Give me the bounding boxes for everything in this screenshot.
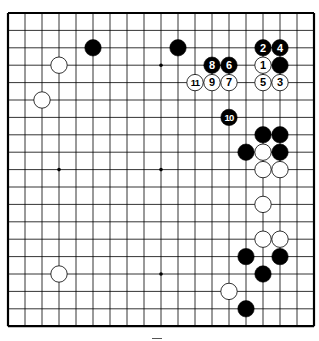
white-stone-move-5: 5 bbox=[255, 74, 271, 90]
star-point bbox=[159, 63, 163, 67]
white-stone bbox=[255, 161, 271, 177]
white-stone-icon bbox=[34, 92, 50, 108]
black-stone-icon bbox=[272, 127, 288, 143]
black-stone-move-4: 4 bbox=[272, 40, 288, 56]
black-stone-icon bbox=[255, 266, 271, 282]
black-stone-icon bbox=[238, 144, 254, 160]
white-stone-move-3: 3 bbox=[272, 74, 288, 90]
black-stone-move-6: 6 bbox=[221, 57, 237, 73]
white-stone bbox=[255, 196, 271, 212]
black-stone-move-8: 8 bbox=[204, 57, 220, 73]
white-stone bbox=[272, 161, 288, 177]
white-stone-icon bbox=[51, 266, 67, 282]
white-stone-icon bbox=[255, 196, 271, 212]
white-stone bbox=[51, 266, 67, 282]
black-stone-icon bbox=[238, 248, 254, 264]
white-stone-icon bbox=[51, 57, 67, 73]
black-stone bbox=[85, 40, 101, 56]
black-stone bbox=[170, 40, 186, 56]
black-stone-icon bbox=[272, 144, 288, 160]
white-stone bbox=[51, 57, 67, 73]
star-point bbox=[159, 272, 163, 276]
black-stone-icon bbox=[238, 301, 254, 317]
black-stone-icon bbox=[85, 40, 101, 56]
move-number-label: 7 bbox=[226, 76, 232, 88]
black-stone-icon bbox=[272, 57, 288, 73]
black-stone-icon bbox=[255, 127, 271, 143]
black-stone bbox=[255, 127, 271, 143]
move-number-label: 9 bbox=[209, 76, 215, 88]
black-stone bbox=[255, 266, 271, 282]
move-number-label: 2 bbox=[260, 42, 266, 54]
move-number-label: 8 bbox=[209, 59, 215, 71]
white-stone-icon bbox=[272, 231, 288, 247]
move-number-label: 6 bbox=[226, 59, 232, 71]
caption-fragment bbox=[152, 338, 162, 339]
white-stone bbox=[255, 144, 271, 160]
white-stone-icon bbox=[255, 161, 271, 177]
white-stone-move-1: 1 bbox=[255, 57, 271, 73]
star-point bbox=[57, 168, 61, 172]
black-stone bbox=[272, 144, 288, 160]
white-stone-icon bbox=[272, 161, 288, 177]
black-stone bbox=[272, 248, 288, 264]
move-number-label: 5 bbox=[260, 76, 266, 88]
white-stone-move-9: 9 bbox=[204, 74, 220, 90]
white-stone-move-11: 11 bbox=[187, 74, 203, 90]
black-stone bbox=[238, 144, 254, 160]
move-number-label: 3 bbox=[277, 76, 283, 88]
move-number-label: 1 bbox=[260, 59, 266, 71]
black-stone-move-10: 10 bbox=[221, 109, 237, 125]
white-stone bbox=[34, 92, 50, 108]
black-stone-move-2: 2 bbox=[255, 40, 271, 56]
white-stone bbox=[221, 283, 237, 299]
black-stone bbox=[238, 301, 254, 317]
white-stone bbox=[272, 231, 288, 247]
black-stone-icon bbox=[272, 248, 288, 264]
white-stone-move-7: 7 bbox=[221, 74, 237, 90]
white-stone-icon bbox=[221, 283, 237, 299]
black-stone bbox=[238, 248, 254, 264]
white-stone-icon bbox=[255, 144, 271, 160]
white-stone-icon bbox=[255, 231, 271, 247]
move-number-label: 4 bbox=[277, 42, 284, 54]
white-stone bbox=[255, 231, 271, 247]
star-point bbox=[159, 168, 163, 172]
black-stone bbox=[272, 127, 288, 143]
move-number-label: 10 bbox=[225, 112, 234, 123]
black-stone-icon bbox=[170, 40, 186, 56]
go-board: 1234567891011 bbox=[0, 0, 319, 341]
black-stone bbox=[272, 57, 288, 73]
